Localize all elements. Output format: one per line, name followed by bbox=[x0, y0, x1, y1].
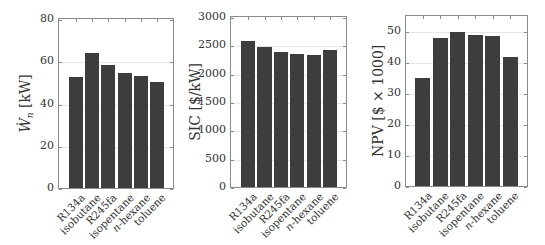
bar-r245fa bbox=[450, 32, 465, 186]
y-tick-mark bbox=[524, 63, 527, 64]
y-tick-mark bbox=[406, 94, 409, 95]
y-tick-label: 20 bbox=[20, 140, 54, 152]
bar-n-hexane bbox=[485, 36, 500, 186]
x-tick-mark bbox=[493, 16, 494, 19]
y-tick-label: 30 bbox=[367, 87, 401, 99]
y-tick-label: 1500 bbox=[192, 96, 226, 108]
bar-isobutane bbox=[433, 38, 448, 186]
y-tick-label: 3000 bbox=[192, 11, 226, 23]
y-tick-mark bbox=[406, 156, 409, 157]
y-tick-label: 60 bbox=[20, 55, 54, 67]
y-tick-label: 1000 bbox=[192, 124, 226, 136]
x-tick-mark bbox=[458, 16, 459, 19]
x-tick-mark bbox=[475, 16, 476, 19]
bar-isopentane bbox=[468, 35, 483, 186]
y-tick-mark bbox=[524, 125, 527, 126]
y-tick-label: 0 bbox=[192, 181, 226, 193]
y-tick-label: 0 bbox=[20, 182, 54, 194]
y-tick-mark bbox=[406, 125, 409, 126]
plot-area bbox=[405, 15, 528, 187]
y-tick-label: 40 bbox=[367, 56, 401, 68]
y-tick-mark bbox=[524, 187, 527, 188]
y-tick-label: 40 bbox=[20, 98, 54, 110]
y-tick-label: 20 bbox=[367, 118, 401, 130]
y-tick-label: 10 bbox=[367, 149, 401, 161]
grid-line bbox=[406, 32, 527, 33]
bar-r134a bbox=[415, 78, 430, 186]
y-tick-label: 0 bbox=[367, 180, 401, 192]
bar-toluene bbox=[503, 57, 518, 186]
y-tick-label: 2500 bbox=[192, 39, 226, 51]
y-tick-label: 50 bbox=[367, 25, 401, 37]
x-tick-mark bbox=[440, 16, 441, 19]
y-tick-mark bbox=[406, 63, 409, 64]
y-tick-label: 2000 bbox=[192, 68, 226, 80]
y-tick-mark bbox=[524, 32, 527, 33]
y-tick-mark bbox=[524, 94, 527, 95]
x-tick-mark bbox=[423, 16, 424, 19]
x-tick-mark bbox=[510, 16, 511, 19]
y-tick-mark bbox=[406, 187, 409, 188]
y-tick-mark bbox=[406, 32, 409, 33]
y-tick-mark bbox=[524, 156, 527, 157]
y-tick-label: 500 bbox=[192, 153, 226, 165]
y-tick-label: 80 bbox=[20, 13, 54, 25]
